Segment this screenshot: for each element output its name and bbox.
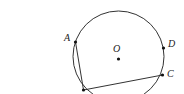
label-a: A: [63, 32, 71, 43]
point-c: [161, 73, 164, 76]
label-o: O: [113, 43, 120, 54]
label-d: D: [167, 38, 176, 49]
point-d: [162, 46, 165, 49]
chord-bc: [84, 75, 163, 90]
point-a: [74, 40, 77, 43]
chord-ab: [76, 42, 84, 90]
point-o: [117, 57, 120, 60]
point-b: [82, 88, 85, 91]
circle-diagram: A O D C: [0, 0, 184, 94]
label-c: C: [167, 68, 174, 79]
